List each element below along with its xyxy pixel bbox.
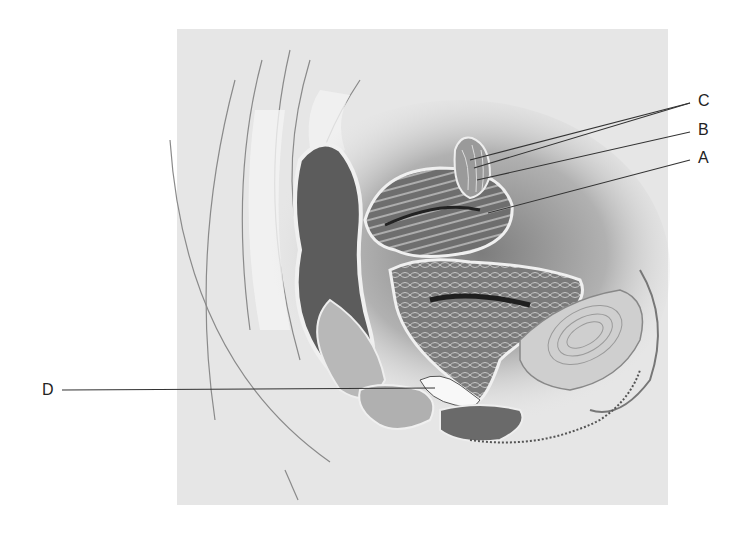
anatomy-figure: C B A D (0, 0, 755, 533)
label-d: D (42, 382, 54, 398)
label-b: B (698, 122, 709, 138)
pelvis-illustration (0, 0, 755, 533)
label-c: C (698, 93, 710, 109)
label-a: A (698, 150, 709, 166)
